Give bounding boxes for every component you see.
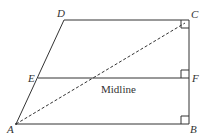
trapezoid-diagram: D C E F A B Midline — [0, 0, 207, 140]
label-e: E — [27, 72, 35, 84]
side-da — [16, 20, 64, 124]
label-f: F — [191, 72, 199, 84]
label-d: D — [56, 7, 65, 19]
midline-label: Midline — [101, 83, 136, 95]
right-angle-marker-c — [181, 20, 189, 28]
label-a: A — [6, 123, 14, 135]
diagonal-ac — [16, 23, 185, 124]
diagram-canvas: D C E F A B Midline — [0, 0, 207, 140]
label-b: B — [190, 123, 197, 135]
point-a-dot — [15, 123, 17, 125]
label-c: C — [191, 8, 199, 20]
right-angle-marker-b — [181, 116, 189, 124]
right-angle-marker-f — [181, 70, 189, 78]
